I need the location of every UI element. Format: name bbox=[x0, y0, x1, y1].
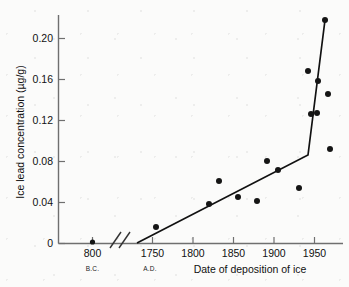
y-tick-label-020: 0.20 bbox=[33, 32, 54, 44]
y-tick-label-008: 0.08 bbox=[33, 155, 54, 167]
y-tick-label-012: 0.12 bbox=[33, 114, 54, 126]
y-tick-labels: 0 0.04 0.08 0.12 0.16 0.20 bbox=[33, 32, 54, 249]
data-point bbox=[206, 201, 212, 207]
chart-svg: Ice lead concentration (µg/g) 0 0.04 0.0… bbox=[0, 0, 349, 287]
x-tick-label-1750: 1750 bbox=[141, 247, 165, 259]
x-tick-label-1850: 1850 bbox=[222, 247, 246, 259]
data-point bbox=[325, 91, 331, 97]
x-tick-label-1950: 1950 bbox=[303, 247, 327, 259]
data-point bbox=[296, 185, 302, 191]
x-tick-label-800: 800 bbox=[84, 247, 102, 259]
era-label-ad: A.D. bbox=[143, 265, 156, 272]
x-tick-label-1900: 1900 bbox=[262, 247, 286, 259]
data-point bbox=[235, 194, 241, 200]
x-axis-title: Date of deposition of ice bbox=[194, 263, 307, 275]
data-point bbox=[264, 158, 270, 164]
y-axis-title-group: Ice lead concentration (µg/g) bbox=[14, 65, 26, 198]
data-points bbox=[90, 17, 333, 245]
y-tick-label-004: 0.04 bbox=[33, 196, 54, 208]
data-point bbox=[153, 224, 159, 230]
data-point bbox=[254, 198, 260, 204]
y-tick-marks bbox=[59, 39, 66, 244]
data-point bbox=[216, 178, 222, 184]
data-point bbox=[315, 78, 321, 84]
data-point bbox=[322, 17, 328, 23]
x-tick-label-1800: 1800 bbox=[181, 247, 205, 259]
data-point bbox=[305, 68, 311, 74]
chart-figure: Ice lead concentration (µg/g) 0 0.04 0.0… bbox=[0, 0, 349, 287]
fit-line bbox=[137, 20, 325, 243]
axis-break-icon bbox=[110, 232, 130, 248]
data-point bbox=[90, 239, 95, 244]
era-label-bc: B.C. bbox=[86, 265, 99, 272]
y-tick-label-0: 0 bbox=[47, 237, 53, 249]
data-point bbox=[314, 110, 320, 116]
data-point bbox=[327, 146, 333, 152]
x-tick-labels: 800 1750 1800 1850 1900 1950 bbox=[84, 247, 327, 259]
data-point bbox=[275, 167, 281, 173]
y-axis-title: Ice lead concentration (µg/g) bbox=[14, 65, 26, 198]
data-point bbox=[308, 111, 314, 117]
y-tick-label-016: 0.16 bbox=[33, 73, 54, 85]
